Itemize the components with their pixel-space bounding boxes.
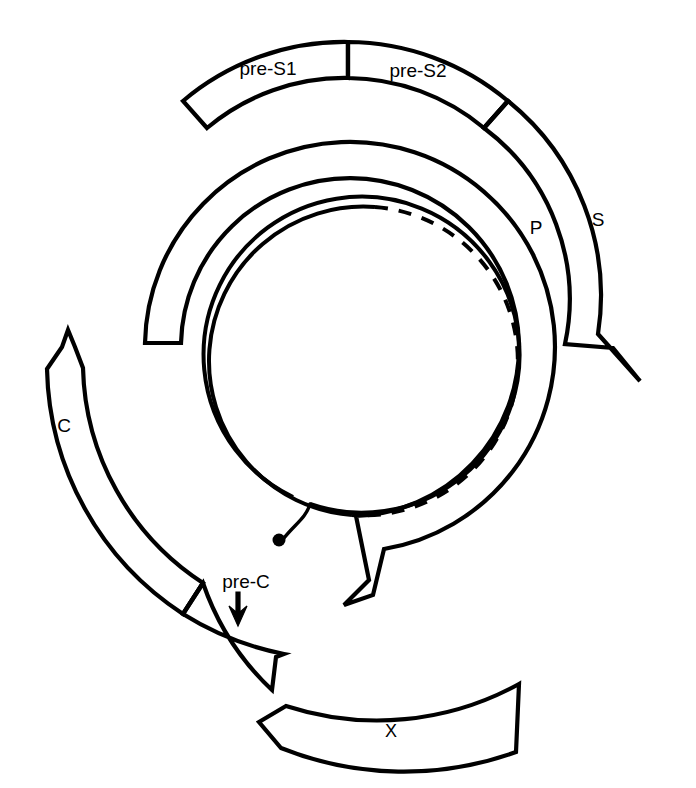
orf-band-pre-s1[interactable] [183, 42, 348, 128]
label-c: C [57, 415, 71, 436]
dna-nick-tail [284, 504, 310, 538]
orf-band-c[interactable] [47, 330, 203, 614]
terminal-protein-dot [273, 534, 286, 547]
pre-c-pointer-arrow [229, 592, 247, 626]
dna-plus-strand-solid [209, 207, 375, 515]
label-pre-s2: pre-S2 [389, 60, 446, 81]
label-p: P [530, 217, 543, 238]
label-pre-c: pre-C [222, 571, 270, 592]
label-s: S [592, 209, 605, 230]
hbv-genome-diagram: pre-S1 pre-S2 S P C pre-C X [0, 0, 696, 788]
label-x: X [385, 721, 397, 741]
orf-band-pre-s2[interactable] [348, 42, 508, 128]
orf-band-pre-c[interactable] [183, 583, 284, 690]
genome-diagram-root: pre-S1 pre-S2 S P C pre-C X [0, 0, 696, 788]
label-pre-s1: pre-S1 [239, 58, 296, 79]
